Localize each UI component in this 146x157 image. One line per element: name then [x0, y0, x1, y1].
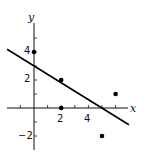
scatter-plot: x y 2 4 4 2 −2	[0, 0, 146, 157]
y-tick-label-4: 4	[24, 45, 30, 56]
y-tick-label-neg2: −2	[18, 130, 33, 141]
regression-line	[7, 49, 129, 125]
data-point	[32, 50, 37, 55]
data-points	[32, 50, 118, 139]
x-tick-label-4: 4	[84, 113, 90, 124]
data-point	[100, 134, 105, 139]
fit-line-segment	[7, 49, 129, 125]
x-tick-label-2: 2	[57, 113, 63, 124]
y-tick-label-2: 2	[24, 73, 30, 84]
y-axis-label: y	[27, 11, 35, 24]
x-axis-label: x	[130, 102, 137, 115]
data-point	[113, 92, 118, 97]
data-point	[59, 106, 64, 111]
data-point	[59, 78, 64, 83]
